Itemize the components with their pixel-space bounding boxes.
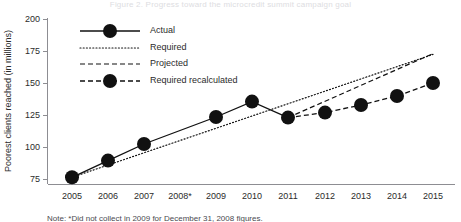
legend-label-required-recalculated: Required recalculated: [150, 75, 238, 85]
y-tick-label-200: 200: [25, 14, 40, 24]
x-tick-label-2013: 2013: [351, 191, 371, 201]
legend-item-required: Required: [80, 42, 187, 52]
data-point-2013-recalc: [354, 98, 368, 112]
x-tick-label-2005: 2005: [62, 191, 82, 201]
x-tick-label-2012: 2012: [315, 191, 335, 201]
x-tick-label-2014: 2014: [387, 191, 407, 201]
data-point-2011-actual: [281, 111, 295, 125]
y-axis-ticks: [43, 20, 48, 180]
data-point-2007-actual: [137, 137, 151, 151]
legend-item-projected: Projected: [80, 58, 188, 68]
data-point-2015-recalc: [426, 76, 440, 90]
line-chart-canvas: 200 175 150 125 100 75 Poorest clients r…: [0, 0, 461, 222]
y-tick-label-175: 175: [25, 46, 40, 56]
x-tick-label-2006: 2006: [98, 191, 118, 201]
legend-label-projected: Projected: [150, 58, 188, 68]
legend-item-required-recalculated: Required recalculated: [80, 74, 238, 88]
x-tick-label-2007: 2007: [134, 191, 154, 201]
y-axis-title: Poorest clients reached (in millions): [3, 30, 13, 172]
y-tick-label-150: 150: [25, 78, 40, 88]
chart-figure: Figure 2. Progress toward the microcredi…: [0, 0, 461, 222]
legend-marker-actual: [103, 24, 117, 38]
series-required-recalculated: [288, 76, 440, 120]
x-tick-label-2008: 2008*: [168, 191, 192, 201]
x-tick-label-2011: 2011: [278, 191, 297, 201]
x-axis: 2005 2006 2007 2008* 2009 2010 2011 2012…: [48, 185, 456, 202]
data-point-2006-actual: [101, 154, 115, 168]
data-point-2014-recalc: [390, 89, 404, 103]
y-tick-label-75: 75: [30, 174, 40, 184]
series-required: [72, 54, 433, 177]
x-tick-label-2009: 2009: [206, 191, 226, 201]
x-tick-label-2015: 2015: [423, 191, 443, 201]
legend-label-actual: Actual: [150, 25, 175, 35]
data-point-2005-actual: [65, 170, 79, 184]
figure-note: Note: *Did not collect in 2009 for Decem…: [47, 214, 263, 222]
x-tick-label-2010: 2010: [242, 191, 262, 201]
y-axis: 200 175 150 125 100 75 Poorest clients r…: [3, 14, 48, 184]
legend-item-actual: Actual: [80, 24, 175, 38]
series-actual: [65, 95, 295, 185]
y-tick-label-100: 100: [25, 142, 40, 152]
legend-label-required: Required: [150, 42, 187, 52]
data-point-2010-actual: [245, 95, 259, 109]
legend-marker-required-recalculated: [103, 74, 117, 88]
y-tick-label-125: 125: [25, 110, 40, 120]
data-point-2012-recalc: [318, 106, 332, 120]
data-point-2009-actual: [209, 110, 223, 124]
chart-legend: Actual Required Projected Required recal…: [80, 24, 238, 88]
